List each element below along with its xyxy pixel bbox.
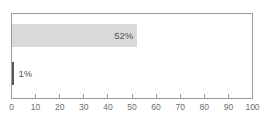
x-axis-tick-label: 60 [151,103,160,112]
x-axis-tick-label: 80 [200,103,209,112]
x-axis-tick [59,94,60,98]
bar-segment-52[interactable]: 52% [12,24,137,47]
x-axis-tick-label: 70 [175,103,184,112]
x-axis-tick-label: 20 [55,103,64,112]
x-axis-tick [107,94,108,98]
bar-segment-1[interactable] [12,62,14,85]
x-axis-tick [132,94,133,98]
x-axis-tick-label: 0 [9,103,14,112]
x-axis-tick-label: 100 [245,103,259,112]
x-axis-tick [252,94,253,98]
bar-value-label: 1% [18,69,32,79]
x-axis-line [11,98,253,99]
x-axis-tick [35,94,36,98]
x-axis-tick [204,94,205,98]
x-axis-tick [156,94,157,98]
bar-chart: 52% 1% 0102030405060708090100 [0,0,269,124]
plot-area: 52% 1% [12,14,253,99]
x-axis-tick [228,94,229,98]
x-axis-tick-label: 10 [31,103,40,112]
x-axis-tick-label: 90 [224,103,233,112]
x-axis-tick [11,94,12,98]
x-axis-tick-label: 50 [127,103,136,112]
x-axis-tick [180,94,181,98]
x-axis-tick-label: 30 [79,103,88,112]
x-axis-tick [83,94,84,98]
bar-value-label: 52% [114,31,133,41]
x-axis-tick-label: 40 [103,103,112,112]
